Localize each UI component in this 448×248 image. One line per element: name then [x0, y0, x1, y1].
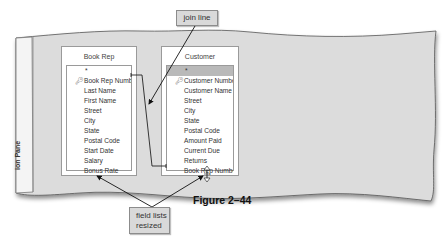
field-row-amount-paid[interactable]: Amount Paid: [167, 136, 233, 146]
field-row-customer-number[interactable]: 🔑︎ Customer Number: [167, 76, 233, 86]
navigation-pane-label: ion Pane: [14, 141, 21, 170]
field-list-title: Customer: [162, 53, 238, 60]
key-icon: 🔑︎: [75, 77, 81, 85]
field-list-book-rep[interactable]: Book Rep * 🔑︎ Book Rep Number Last Name …: [61, 46, 137, 176]
field-row-book-rep-number[interactable]: Book Rep Number: [167, 166, 233, 176]
field-list-title: Book Rep: [62, 53, 136, 60]
field-row-state[interactable]: State: [67, 126, 131, 136]
field-row-street[interactable]: Street: [167, 96, 233, 106]
field-row-all[interactable]: *: [167, 66, 233, 76]
field-row-postal-code[interactable]: Postal Code: [67, 136, 131, 146]
figure: ion Pane Book Rep * 🔑︎ Book Rep Number L…: [0, 0, 448, 248]
field-row-city[interactable]: City: [167, 106, 233, 116]
field-row-current-due[interactable]: Current Due: [167, 146, 233, 156]
field-row-bonus-rate[interactable]: Bonus Rate: [67, 166, 131, 176]
field-row-start-date[interactable]: Start Date: [67, 146, 131, 156]
field-list-body[interactable]: * 🔑︎ Customer Number Customer Name Stree…: [166, 65, 234, 171]
field-row-book-rep-number[interactable]: 🔑︎ Book Rep Number: [67, 76, 131, 86]
key-icon: 🔑︎: [175, 77, 181, 85]
field-row-postal-code[interactable]: Postal Code: [167, 126, 233, 136]
field-list-body[interactable]: * 🔑︎ Book Rep Number Last Name First Nam…: [66, 65, 132, 171]
callout-line-1: field lists: [136, 211, 169, 221]
field-row-customer-name[interactable]: Customer Name: [167, 86, 233, 96]
field-row-salary[interactable]: Salary: [67, 156, 131, 166]
callout-join-line: join line: [176, 10, 218, 26]
field-row-state[interactable]: State: [167, 116, 233, 126]
field-list-customer[interactable]: Customer * 🔑︎ Customer Number Customer N…: [161, 46, 239, 176]
callout-line-2: resized: [136, 221, 169, 231]
field-row-returns[interactable]: Returns: [167, 156, 233, 166]
field-row-city[interactable]: City: [67, 116, 131, 126]
field-row-first-name[interactable]: First Name: [67, 96, 131, 106]
field-row-all[interactable]: *: [67, 66, 131, 76]
callout-field-lists-resized: field lists resized: [129, 207, 170, 234]
figure-caption: Figure 2–44: [193, 194, 251, 206]
field-row-street[interactable]: Street: [67, 106, 131, 116]
field-row-last-name[interactable]: Last Name: [67, 86, 131, 96]
